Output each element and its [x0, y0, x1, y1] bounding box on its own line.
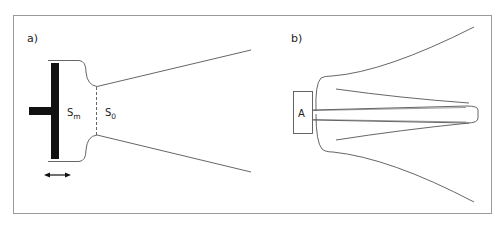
- panel-b-label: b): [291, 32, 302, 45]
- throat-area-label: S0: [105, 107, 116, 121]
- outer-flare-upper: [316, 27, 474, 111]
- panel-a-label: a): [27, 32, 38, 45]
- figure-frame: [14, 16, 492, 214]
- chamber-area-label: Sm: [67, 107, 81, 121]
- chamber-upper-wall: [48, 50, 251, 87]
- driver-label: A: [298, 108, 305, 119]
- panel-b: b) A: [291, 27, 478, 202]
- panel-a: a) Sm S0: [27, 32, 251, 178]
- piston-plate: [51, 63, 59, 159]
- chamber-lower-wall: [48, 135, 251, 172]
- inner-guide-lower: [336, 123, 469, 140]
- inner-guide-upper: [336, 89, 469, 103]
- phase-plug: [313, 106, 478, 123]
- piston-rod: [29, 107, 52, 115]
- outer-flare-lower: [316, 114, 474, 202]
- figure: a) Sm S0 b) A: [0, 0, 504, 225]
- double-arrow-icon: [44, 173, 71, 178]
